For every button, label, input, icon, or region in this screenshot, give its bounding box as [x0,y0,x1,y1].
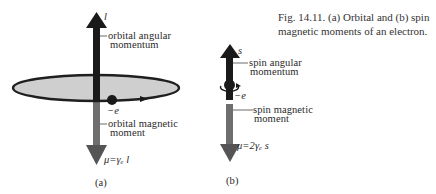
spin-equation: μ=2γₑ s [237,141,269,151]
orbital-magnetic-label-2: moment [110,128,145,138]
caption-line-2: magnetic moments of an electron. [278,24,429,38]
panel-b-label: (b) [226,176,239,186]
spin-angular-arrow-shaft [226,56,233,100]
orbital-angular-label-2: momentum [110,40,159,50]
panel-a-label: (a) [95,178,107,188]
spin-angular-label-2: momentum [250,67,299,77]
spin-electron-dot [224,80,235,91]
spin-vector-symbol: s [238,46,242,56]
spin-magnetic-label-2: moment [254,114,289,124]
spin-angular-arrowhead [220,44,240,58]
electron-dot [107,95,117,105]
orbital-vector-symbol: l [104,12,107,22]
figure-caption: Fig. 14.11. (a) Orbital and (b) spin mag… [278,10,429,38]
orbital-magnetic-arrow-shaft [93,100,100,147]
orbital-equation: μ=γₑ l [104,155,129,165]
caption-line-1: Fig. 14.11. (a) Orbital and (b) spin [278,10,429,24]
orbital-charge-label: −e [107,106,119,116]
spin-magnetic-arrow-shaft [226,104,233,146]
spin-charge-label: −e [234,91,246,101]
orbital-angular-arrow-shaft [93,26,100,102]
